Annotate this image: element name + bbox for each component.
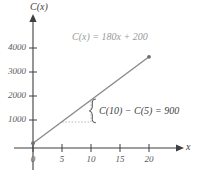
x-axis [14, 144, 184, 151]
x-tick-label-20: 20 [141, 155, 157, 164]
y-tick-label-4000: 4000 [2, 43, 26, 52]
x-tick-label-0: 0 [25, 155, 41, 164]
chart-figure: C(x) x C(x) = 180x + 200 C(10) − C(5) = … [0, 0, 198, 182]
cost-line [31, 55, 151, 145]
x-tick-label-15: 15 [112, 155, 128, 164]
y-tick-label-2000: 2000 [2, 91, 26, 100]
y-axis-label: C(x) [30, 2, 48, 12]
difference-annotation-label: C(10) − C(5) = 900 [99, 106, 179, 116]
equation-label: C(x) = 180x + 200 [72, 32, 148, 42]
rise-brace [89, 99, 95, 123]
y-tick-label-3000: 3000 [2, 67, 26, 76]
x-tick-label-10: 10 [83, 155, 99, 164]
x-tick-label-5: 5 [54, 155, 70, 164]
x-axis-label: x [186, 142, 190, 152]
y-tick-label-1000: 1000 [2, 115, 26, 124]
